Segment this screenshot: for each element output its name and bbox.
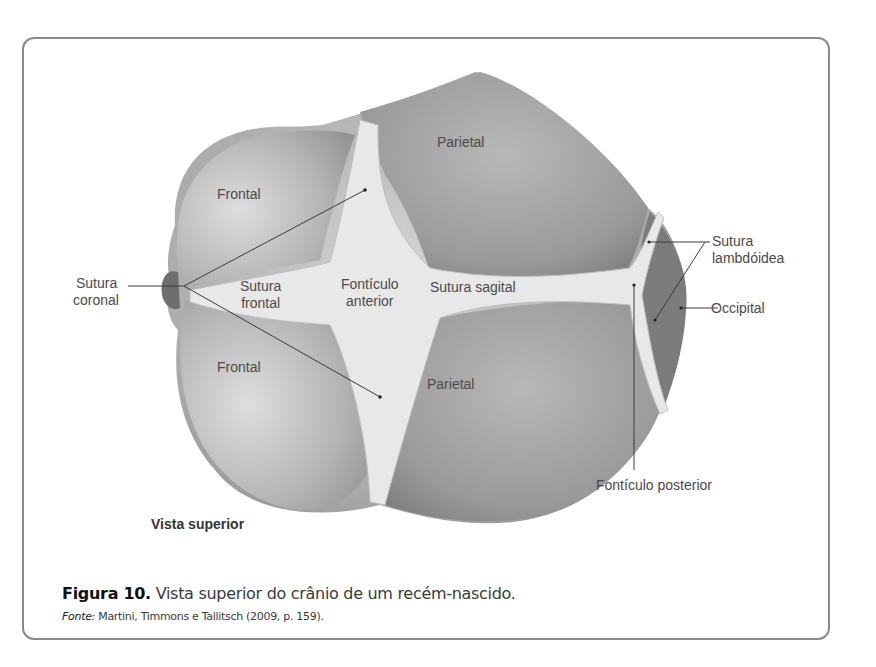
caption-text: Vista superior do crânio de um recém-nas…: [151, 584, 516, 603]
label-fonticulo-posterior: Fontículo posterior: [596, 477, 712, 494]
label-fonticulo-anterior: Fontículo anterior: [341, 276, 399, 310]
label-occipital: Occipital: [711, 300, 765, 317]
figure-source: Fonte: Martini, Timmons e Tallitsch (200…: [62, 610, 324, 623]
label-sutura-sagital: Sutura sagital: [430, 279, 516, 296]
label-sutura-lambdoidea: Sutura lambdóidea: [712, 233, 784, 267]
figure-caption: Figura 10. Vista superior do crânio de u…: [62, 584, 516, 603]
caption-prefix: Figura 10.: [62, 584, 151, 603]
skull-illustration: [0, 0, 876, 667]
label-sutura-coronal: Sutura coronal: [73, 275, 119, 309]
label-frontal-top: Frontal: [217, 186, 261, 203]
label-sutura-frontal: Sutura frontal: [240, 278, 281, 312]
label-parietal-top: Parietal: [437, 134, 484, 151]
label-frontal-bottom: Frontal: [217, 359, 261, 376]
source-text: Martini, Timmons e Tallitsch (2009, p. 1…: [95, 610, 324, 623]
label-parietal-bottom: Parietal: [427, 376, 474, 393]
source-prefix: Fonte:: [62, 610, 95, 623]
view-label: Vista superior: [151, 516, 244, 532]
